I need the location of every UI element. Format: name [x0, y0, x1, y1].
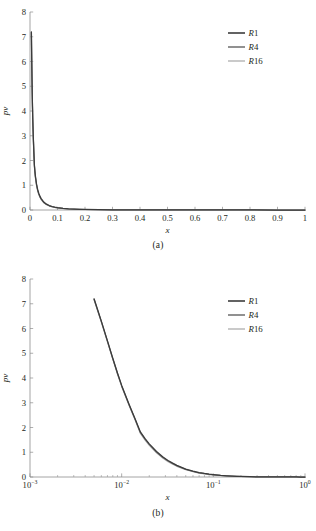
panel-b-caption: (b)	[0, 508, 316, 518]
y-tick-label: 7	[22, 299, 27, 309]
y-tick-label: 5	[22, 348, 26, 358]
legend-label-r1: R1	[248, 28, 259, 38]
panel-a: 01234567800.10.20.30.40.50.60.70.80.91xp…	[0, 0, 316, 265]
y-tick-label: 4	[22, 373, 27, 383]
x-tick-label: 0.4	[135, 213, 146, 223]
y-tick-label: 1	[22, 180, 26, 190]
x-tick-label: 10−1	[206, 479, 221, 490]
x-axis-label: x	[164, 225, 170, 235]
x-tick-label: 100	[299, 479, 311, 490]
series-line-r16	[31, 33, 305, 210]
y-tick-label: 3	[22, 131, 26, 141]
legend-label-r1: R1	[248, 296, 259, 306]
x-tick-label: 0.8	[245, 213, 256, 223]
x-tick-label: 0.3	[107, 213, 118, 223]
x-tick-label: 0	[28, 213, 32, 223]
legend-label-r4: R4	[248, 42, 259, 52]
x-tick-label: 1	[303, 213, 307, 223]
y-tick-label: 2	[22, 156, 26, 166]
y-tick-label: 6	[22, 57, 27, 67]
y-tick-label: 2	[22, 423, 26, 433]
panel-a-caption: (a)	[0, 240, 316, 250]
y-tick-label: 7	[22, 32, 27, 42]
panel-b: 01234567810−310−210−1100xpvR1R4R16	[0, 265, 316, 531]
series-line-r1	[94, 299, 305, 477]
legend: R1R4R16	[228, 28, 263, 66]
y-tick-label: 0	[22, 205, 26, 215]
legend-label-r16: R16	[248, 56, 264, 66]
x-tick-label: 10−2	[114, 479, 129, 490]
series-line-r4	[31, 32, 305, 210]
y-tick-label: 8	[22, 7, 26, 17]
y-tick-label: 1	[22, 447, 26, 457]
series-line-r1	[31, 32, 305, 210]
series-line-r16	[94, 300, 305, 477]
y-tick-label: 4	[22, 106, 27, 116]
y-tick-label: 5	[22, 81, 26, 91]
legend-label-r4: R4	[248, 310, 259, 320]
legend: R1R4R16	[228, 296, 263, 334]
y-tick-label: 6	[22, 324, 27, 334]
x-tick-label: 0.2	[80, 213, 91, 223]
legend-label-r16: R16	[248, 324, 264, 334]
x-tick-label: 0.9	[272, 213, 283, 223]
y-tick-label: 8	[22, 274, 26, 284]
x-tick-label: 10−3	[23, 479, 38, 490]
series-line-r4	[94, 299, 305, 477]
x-axis-label: x	[164, 492, 170, 502]
x-tick-label: 0.5	[162, 213, 173, 223]
y-axis-label: pv	[0, 106, 10, 117]
figure-container: 01234567800.10.20.30.40.50.60.70.80.91xp…	[0, 0, 316, 531]
y-tick-label: 3	[22, 398, 26, 408]
x-tick-label: 0.1	[52, 213, 63, 223]
panel-a-plot: 01234567800.10.20.30.40.50.60.70.80.91xp…	[0, 0, 316, 265]
y-axis-label: pv	[0, 373, 10, 384]
x-tick-label: 0.6	[190, 213, 201, 223]
x-tick-label: 0.7	[217, 213, 228, 223]
panel-b-plot: 01234567810−310−210−1100xpvR1R4R16	[0, 265, 316, 531]
